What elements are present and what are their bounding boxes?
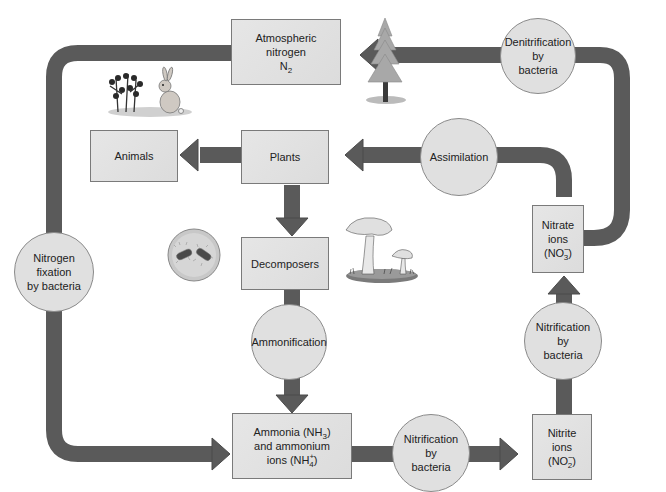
nitrate-ions-box: Nitrate ions (NO−3) xyxy=(532,205,584,273)
box-label: ions xyxy=(548,232,568,246)
ammonium-formula: ions (NH+4) xyxy=(267,453,318,467)
denitrification-pipe xyxy=(376,55,622,238)
arrowhead-into-plants xyxy=(345,139,363,171)
process-label: by xyxy=(532,49,544,63)
nitrification-circle-right: Nitrification by bacteria xyxy=(524,302,602,380)
box-label: Animals xyxy=(114,149,153,163)
animals-box: Animals xyxy=(90,130,178,182)
process-label: Nitrification xyxy=(536,320,590,334)
conifer-tree-icon xyxy=(362,14,408,104)
nitrite-formula: (NO−2) xyxy=(548,454,576,468)
process-label: bacteria xyxy=(411,460,450,474)
box-label: nitrogen xyxy=(266,45,306,59)
mushrooms-icon xyxy=(344,212,420,284)
arrowhead-into-decomposers xyxy=(276,218,308,236)
process-label: by xyxy=(557,334,569,348)
process-label: by xyxy=(425,446,437,460)
nitrate-formula: (NO−3) xyxy=(544,246,572,260)
process-label: bacteria xyxy=(518,63,557,77)
ammonification-circle: Ammonification xyxy=(251,304,327,380)
box-label: ions xyxy=(552,440,572,454)
process-label: Denitrification xyxy=(505,35,572,49)
process-label: Nitrification xyxy=(404,432,458,446)
arrowhead-into-ammonia-left xyxy=(212,438,230,470)
plants-box: Plants xyxy=(241,130,329,184)
process-label: Ammonification xyxy=(251,335,326,349)
arrowhead-into-nitrite xyxy=(500,438,518,470)
nitrite-ions-box: Nitrite ions (NO−2) xyxy=(532,414,592,480)
ammonia-box: Ammonia (NH3) and ammonium ions (NH+4) xyxy=(232,413,352,479)
box-label: Nitrite xyxy=(548,426,577,440)
plants-and-rabbit-icon xyxy=(100,64,195,118)
arrowhead-into-animals xyxy=(180,139,198,171)
box-label: Atmospheric xyxy=(255,31,316,45)
process-label: bacteria xyxy=(543,348,582,362)
box-label: Decomposers xyxy=(251,257,319,271)
nitrification-circle-bottom: Nitrification by bacteria xyxy=(392,414,470,492)
box-label: and ammonium xyxy=(254,439,330,453)
process-label: by bacteria xyxy=(27,279,81,293)
process-label: Assimilation xyxy=(430,150,489,164)
decomposers-box: Decomposers xyxy=(241,237,329,290)
arrowhead-into-ammonia xyxy=(276,395,308,413)
denitrification-circle: Denitrification by bacteria xyxy=(500,18,576,94)
bacteria-petri-dish-icon xyxy=(166,227,222,283)
ammonia-line1: Ammonia (NH3) xyxy=(253,425,330,439)
atmospheric-nitrogen-box: Atmospheric nitrogen N2 xyxy=(231,19,341,85)
assimilation-circle: Assimilation xyxy=(420,118,498,196)
process-label: Nitrogen xyxy=(33,251,75,265)
box-label: Nitrate xyxy=(542,218,574,232)
nitrogen-fixation-circle: Nitrogen fixation by bacteria xyxy=(14,232,94,312)
box-label: Plants xyxy=(270,150,301,164)
arrowhead-into-nitrate xyxy=(548,276,580,294)
formula-n2: N2 xyxy=(280,59,292,73)
process-label: fixation xyxy=(37,265,72,279)
